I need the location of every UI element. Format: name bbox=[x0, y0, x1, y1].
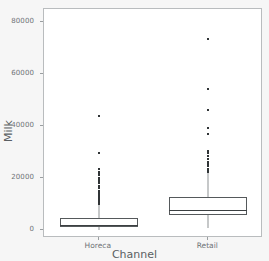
outlier-point bbox=[207, 127, 209, 129]
y-tick-label: 20000 bbox=[0, 173, 34, 181]
outlier-point bbox=[207, 109, 209, 111]
x-tick-mark bbox=[98, 237, 99, 240]
x-axis-title: Channel bbox=[0, 248, 269, 261]
x-tick-mark bbox=[207, 237, 208, 240]
box-iqr bbox=[169, 197, 247, 215]
outlier-point bbox=[207, 164, 209, 166]
plot-area bbox=[43, 8, 262, 237]
outlier-point bbox=[207, 38, 209, 40]
plot-inner bbox=[44, 9, 261, 236]
outlier-point bbox=[207, 168, 209, 170]
boxplot-figure: Milk 020000400006000080000 HorecaRetail … bbox=[0, 0, 269, 261]
outlier-point bbox=[207, 155, 209, 157]
outlier-point bbox=[207, 88, 209, 90]
outlier-point bbox=[207, 158, 209, 160]
outlier-point bbox=[207, 161, 209, 163]
y-tick-label: 40000 bbox=[0, 121, 34, 129]
outlier-point bbox=[207, 170, 209, 172]
median-line bbox=[169, 210, 247, 211]
box-plot-retail bbox=[44, 9, 261, 236]
outlier-point bbox=[207, 133, 209, 135]
whisker-lower bbox=[208, 215, 209, 228]
outlier-point bbox=[207, 150, 209, 152]
y-tick-label: 80000 bbox=[0, 17, 34, 25]
y-tick-label: 60000 bbox=[0, 69, 34, 77]
whisker-upper bbox=[208, 173, 209, 197]
y-tick-label: 0 bbox=[0, 225, 34, 233]
